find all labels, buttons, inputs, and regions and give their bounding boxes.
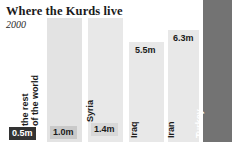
bar-turkey[interactable]: Turkey [203,0,232,142]
chart-header: Where the Kurds live 2000 [6,4,123,31]
bar-label-iraq: Iraq [128,121,138,138]
chart-figure: Where the Kurds live 2000 former USSR 0.… [0,0,232,142]
bar-value-former-ussr: 0.5m [9,127,36,140]
bar-fill-rest-of-world [47,18,82,142]
bar-label-line: the rest [19,93,29,126]
bar-rest-of-world[interactable]: the rest of the world 1.0m [47,18,82,142]
bar-value-iran: 6.3m [170,32,197,45]
bar-label-rest-of-world: the rest of the world [19,75,39,126]
bar-iraq[interactable]: Iraq 5.5m [129,42,164,142]
bar-label-turkey: Turkey [193,109,203,138]
bar-value-iraq: 5.5m [132,44,159,57]
bar-syria[interactable]: Syria 1.4m [88,18,123,142]
bar-value-rest-of-world: 1.0m [50,126,77,139]
bar-label-syria: Syria [84,100,94,122]
page-title: Where the Kurds live [6,4,123,18]
bar-label-line: Iran [165,121,175,138]
bar-label-line: Syria [84,100,94,122]
chart-subtitle-year: 2000 [6,19,123,31]
bar-label-line: of the world [29,75,39,126]
bar-value-syria: 1.4m [91,123,118,136]
bar-fill-turkey [203,0,232,142]
bar-label-line: Turkey [193,109,203,138]
bar-label-iran: Iran [165,121,175,138]
bar-label-line: Iraq [128,121,138,138]
